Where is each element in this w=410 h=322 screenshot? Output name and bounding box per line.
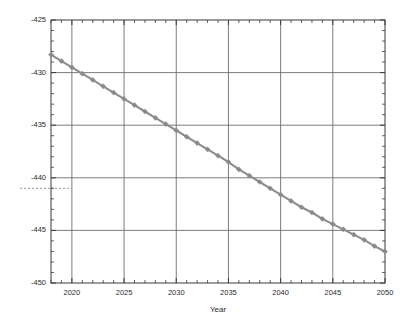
x-tick-label: 2050 bbox=[377, 288, 394, 297]
y-tick-label: -430 bbox=[31, 68, 46, 77]
plot-background bbox=[51, 20, 385, 283]
x-tick-label: 2045 bbox=[324, 288, 341, 297]
line-chart: -450-445-440-435-430-425 202020252030203… bbox=[0, 0, 410, 322]
y-tick-label: -435 bbox=[31, 120, 46, 129]
x-tick-label: 2040 bbox=[272, 288, 289, 297]
chart-figure: -450-445-440-435-430-425 202020252030203… bbox=[0, 0, 410, 322]
x-tick-label: 2030 bbox=[168, 288, 185, 297]
x-axis-title: Year bbox=[210, 305, 227, 314]
x-tick-label: 2035 bbox=[220, 288, 237, 297]
x-tick-label: 2020 bbox=[64, 288, 81, 297]
x-axis-tick-labels: 2020202520302035204020452050 bbox=[64, 288, 394, 297]
x-tick-label: 2025 bbox=[116, 288, 133, 297]
y-tick-label: -445 bbox=[31, 225, 46, 234]
y-axis-tick-labels: -450-445-440-435-430-425 bbox=[31, 15, 46, 287]
y-tick-label: -425 bbox=[31, 15, 46, 24]
y-tick-label: -440 bbox=[31, 173, 46, 182]
y-tick-label: -450 bbox=[31, 278, 46, 287]
